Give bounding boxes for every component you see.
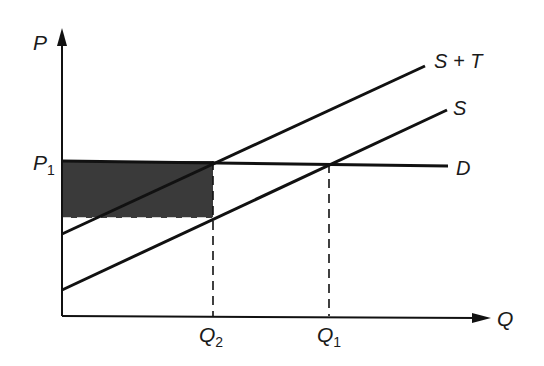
p1-label-main: P — [33, 151, 47, 174]
demand-label: D — [456, 157, 470, 179]
q1-label-main: Q — [317, 323, 333, 346]
tax-revenue-area — [62, 161, 213, 218]
supply-plus-tax-label: S + T — [434, 50, 484, 72]
q1-label-sub: 1 — [333, 334, 341, 350]
tax-incidence-diagram: P Q P1 Q2 Q1 S + T S D — [0, 0, 544, 366]
q2-label-main: Q — [199, 323, 215, 346]
q2-label: Q2 — [199, 323, 223, 350]
supply-plus-tax-curve — [62, 66, 425, 234]
x-axis-arrow-icon — [472, 313, 491, 323]
p1-label: P1 — [33, 151, 55, 178]
x-axis — [62, 316, 478, 318]
x-axis-label: Q — [497, 307, 513, 330]
p1-label-sub: 1 — [47, 162, 55, 178]
q1-label: Q1 — [317, 323, 341, 350]
supply-label: S — [453, 97, 467, 119]
q2-label-sub: 2 — [215, 334, 223, 350]
y-axis-label: P — [33, 31, 47, 54]
y-axis-arrow-icon — [57, 28, 67, 46]
